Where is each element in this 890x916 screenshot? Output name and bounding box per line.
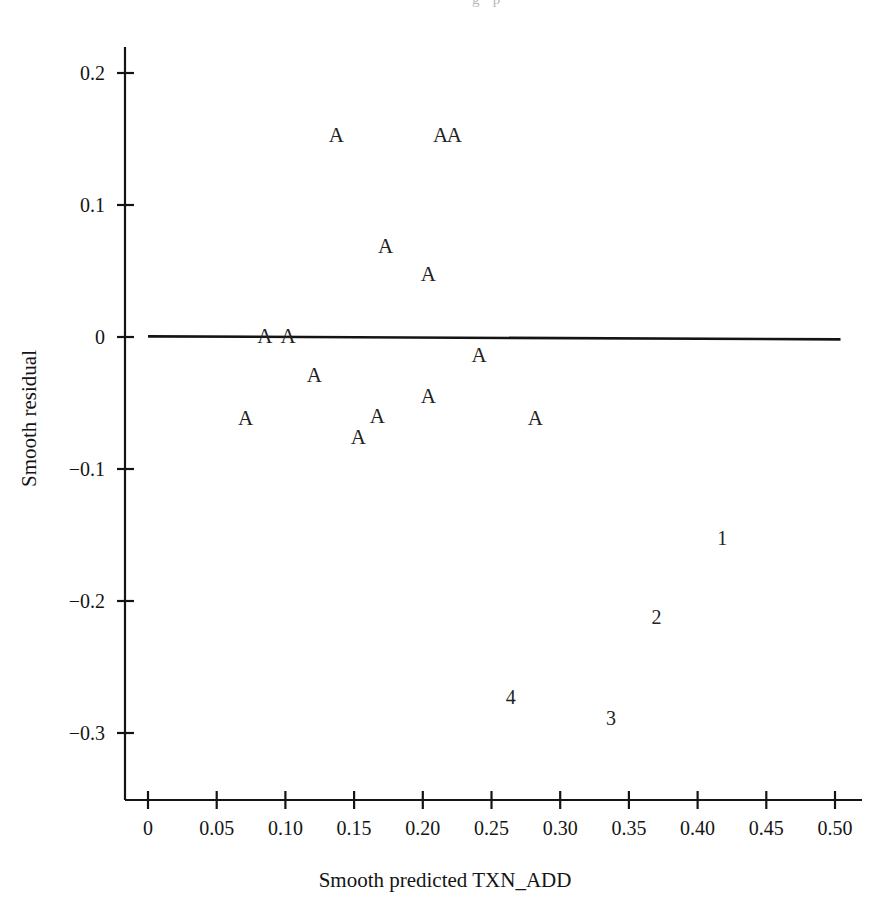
data-point-a: A [281, 325, 296, 346]
y-axis-title: Smooth residual [17, 309, 42, 529]
data-point-a: A [447, 125, 462, 146]
data-point-a: A [238, 407, 253, 428]
data-point-a: A [351, 427, 366, 448]
data-point-a: A [257, 325, 272, 346]
y-tick-label: 0.2 [20, 63, 105, 83]
data-point-numbered: 1 [717, 527, 727, 548]
data-point-a: A [307, 365, 322, 386]
data-point-a: A [378, 235, 393, 256]
y-tick-label: −0.2 [20, 591, 105, 611]
data-point-numbered: 2 [651, 606, 661, 627]
x-axis-title: Smooth predicted TXN_ADD [0, 868, 890, 893]
data-point-a: A [370, 406, 385, 427]
y-tick-label: 0.1 [20, 195, 105, 215]
data-point-a: A [421, 263, 436, 284]
zero-reference-line [148, 336, 840, 339]
data-point-a: A [528, 407, 543, 428]
x-tick-label: 0.50 [785, 818, 885, 838]
data-point-numbered: 4 [506, 687, 516, 708]
data-point-numbered: 3 [606, 708, 616, 729]
y-tick-label: −0.3 [20, 723, 105, 743]
data-point-a: A [421, 386, 436, 407]
data-point-a: A [329, 125, 344, 146]
scatter-plot-figure: · · · · · · · · · · g · p · 0.20.10−0.1−… [0, 0, 890, 916]
data-point-a: A [472, 345, 487, 366]
